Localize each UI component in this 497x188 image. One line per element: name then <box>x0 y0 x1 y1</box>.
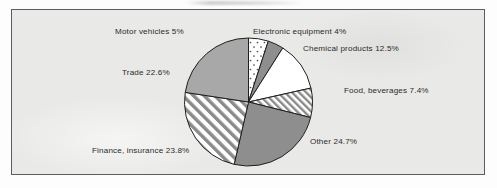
slice-label-food-beverages: Food, beverages 7.4% <box>344 86 429 95</box>
slice-label-motor-vehicles: Motor vehicles 5% <box>115 27 184 36</box>
slice-label-electronic-equipment: Electronic equipment 4% <box>253 27 346 36</box>
slice-label-other: Other 24.7% <box>310 137 357 146</box>
pie-slice-group <box>185 38 313 166</box>
pie-chart: Motor vehicles 5% Electronic equipment 4… <box>0 0 497 188</box>
pie-slice-trade <box>185 38 248 102</box>
slice-label-chemical-products: Chemical products 12.5% <box>303 44 399 53</box>
slice-label-finance-insurance: Finance, insurance 23.8% <box>92 146 189 155</box>
slice-label-trade: Trade 22.6% <box>122 68 170 77</box>
